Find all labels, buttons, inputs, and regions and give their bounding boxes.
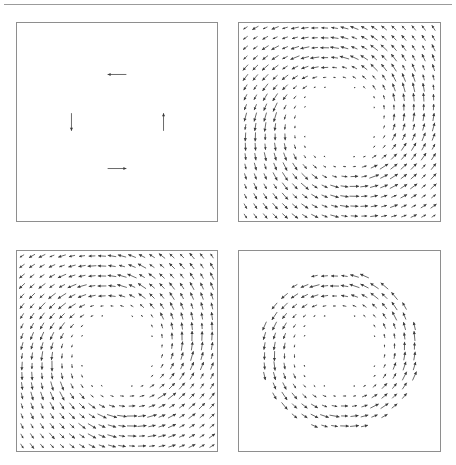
panel-top-left xyxy=(16,22,218,222)
panel-top-right xyxy=(238,22,441,222)
top-horizontal-rule xyxy=(4,4,452,5)
vector-field-a xyxy=(17,23,217,221)
panel-bottom-left xyxy=(16,250,218,452)
vector-field-b xyxy=(239,23,440,221)
figure-page xyxy=(0,0,456,465)
panel-bottom-right xyxy=(238,250,441,452)
vector-field-c xyxy=(17,251,217,451)
vector-field-d xyxy=(239,251,440,451)
